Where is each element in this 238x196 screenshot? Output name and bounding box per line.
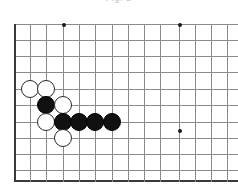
grid-line-horizontal-8 bbox=[14, 154, 238, 155]
grid-line-vertical-8 bbox=[144, 24, 145, 182]
grid-line-vertical-6 bbox=[112, 24, 113, 182]
grid-line-vertical-4 bbox=[79, 24, 80, 182]
grid-line-vertical-11 bbox=[195, 24, 196, 182]
grid-line-vertical-10 bbox=[179, 24, 180, 182]
grid-line-horizontal-7 bbox=[14, 138, 238, 139]
board-left-border bbox=[14, 24, 16, 182]
white-stone-d5[interactable] bbox=[54, 96, 72, 114]
black-stone-g6[interactable] bbox=[103, 113, 121, 131]
grid-line-vertical-12 bbox=[211, 24, 212, 182]
diagram-root: Fig. 2 bbox=[0, 0, 238, 196]
grid-line-horizontal-0 bbox=[14, 24, 238, 25]
grid-line-vertical-9 bbox=[160, 24, 161, 182]
grid-line-vertical-5 bbox=[95, 24, 96, 182]
board-bottom-border bbox=[14, 180, 238, 182]
grid-line-horizontal-2 bbox=[14, 56, 238, 57]
white-stone-c6[interactable] bbox=[37, 113, 55, 131]
grid-line-vertical-13 bbox=[227, 24, 228, 182]
grid-line-vertical-7 bbox=[128, 24, 129, 182]
black-stone-c5[interactable] bbox=[37, 96, 55, 114]
white-stone-d7[interactable] bbox=[54, 129, 72, 147]
grid-line-horizontal-9 bbox=[14, 170, 238, 171]
star-point-upper-right bbox=[178, 23, 182, 27]
grid-line-horizontal-1 bbox=[14, 40, 238, 41]
grid-line-horizontal-3 bbox=[14, 72, 238, 73]
grid-line-vertical-1 bbox=[30, 24, 31, 182]
go-board[interactable] bbox=[0, 0, 238, 196]
star-point-lower-right bbox=[178, 129, 182, 133]
star-point-upper-left bbox=[62, 23, 66, 27]
black-stone-f6[interactable] bbox=[86, 113, 104, 131]
